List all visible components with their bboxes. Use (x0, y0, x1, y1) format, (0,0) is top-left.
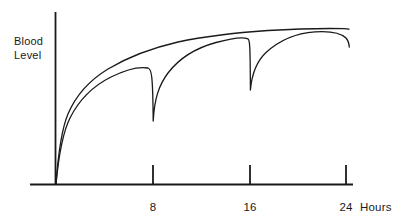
chart-figure: Blood Level 8 16 24 Hours (0, 0, 405, 223)
x-tick-label-8: 8 (150, 201, 157, 213)
series-envelope-average-blood-level (56, 28, 349, 184)
series-multiple-dose-sawtooth-blood-level (56, 32, 349, 184)
y-axis-label-line2: Level (14, 49, 41, 61)
x-axis-units-label: Hours (360, 201, 392, 213)
blood-level-vs-time-chart: Blood Level 8 16 24 Hours (0, 0, 405, 223)
y-axis-label-line1: Blood (14, 35, 43, 47)
x-tick-label-16: 16 (243, 201, 256, 213)
x-tick-label-24: 24 (339, 201, 353, 213)
